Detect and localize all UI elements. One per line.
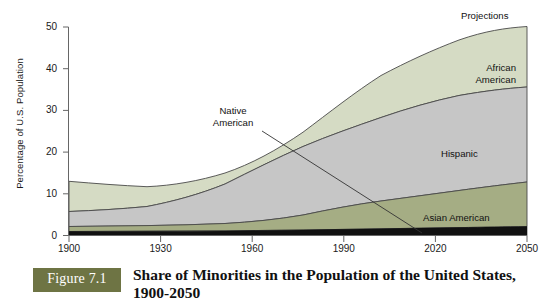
hispanic-label: Hispanic: [441, 148, 478, 160]
x-tick-label-1930: 1930: [138, 243, 184, 254]
x-tick-label-2050: 2050: [504, 243, 550, 254]
caption-line-2: 1900-2050: [133, 284, 200, 301]
x-tick-label-1990: 1990: [321, 243, 367, 254]
y-tick-label-10: 10: [31, 188, 57, 199]
y-tick-label-30: 30: [31, 104, 57, 115]
chart-area: Percentage of U.S. Population 50 40 30 2…: [0, 0, 558, 252]
figure-number-badge: Figure 7.1: [33, 268, 121, 292]
y-tick-label-40: 40: [31, 63, 57, 74]
african-american-label-line2: American: [475, 74, 516, 85]
x-tick-label-1900: 1900: [46, 243, 92, 254]
y-tick-label-20: 20: [31, 146, 57, 157]
y-axis-title: Percentage of U.S. Population: [14, 19, 25, 229]
figure-number-text: Figure 7.1: [33, 271, 121, 287]
x-tick-label-2020: 2020: [412, 243, 458, 254]
native-american-label-line2: American: [213, 117, 254, 128]
african-american-label-line1: African: [486, 62, 516, 73]
y-tick-label-50: 50: [31, 21, 57, 32]
projections-label: Projections: [461, 10, 508, 22]
caption-line-1: Share of Minorities in the Population of…: [133, 266, 516, 283]
native-american-label: Native American: [193, 105, 273, 128]
y-tick-label-0: 0: [31, 230, 57, 241]
african-american-label: African American: [420, 62, 516, 85]
figure-caption-text: Share of Minorities in the Population of…: [133, 266, 553, 302]
figure-caption: Figure 7.1 Share of Minorities in the Po…: [0, 258, 558, 295]
native-american-label-line1: Native: [219, 105, 246, 116]
asian-american-label: Asian American: [423, 212, 490, 224]
x-tick-label-1960: 1960: [229, 243, 275, 254]
